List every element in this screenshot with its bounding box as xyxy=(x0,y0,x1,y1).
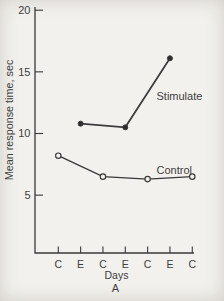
y-tick-label: 10 xyxy=(18,127,30,139)
x-axis-title: Days xyxy=(105,269,129,281)
x-tick-label: C xyxy=(55,258,63,270)
series-label-stimulate: Stimulate xyxy=(157,90,203,102)
figure-panel: 2015105CECECECStimulateControlDaysAMean … xyxy=(0,0,224,301)
y-tick-label: 5 xyxy=(24,189,30,201)
x-tick-label: E xyxy=(77,258,84,270)
data-point-control xyxy=(100,174,105,179)
y-tick-label: 20 xyxy=(18,4,30,16)
x-tick-label: C xyxy=(188,258,196,270)
x-tick-label: E xyxy=(166,258,173,270)
data-point-stimulate xyxy=(78,121,83,126)
series-label-control: Control xyxy=(157,164,192,176)
data-point-control xyxy=(145,176,150,181)
panel-label: A xyxy=(112,282,120,294)
axes-lines xyxy=(35,7,194,253)
line-chart: 2015105CECECECStimulateControlDaysAMean … xyxy=(0,0,224,301)
data-point-stimulate xyxy=(123,125,128,130)
y-axis-title: Mean response time, sec xyxy=(3,59,15,180)
y-tick-label: 15 xyxy=(18,66,30,78)
x-tick-label: C xyxy=(144,258,152,270)
data-point-control xyxy=(56,153,61,158)
data-point-stimulate xyxy=(167,56,172,61)
